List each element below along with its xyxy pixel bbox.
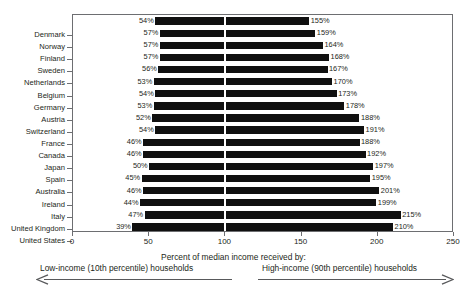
range-bar: [155, 126, 364, 133]
low-value-label: 53%: [137, 76, 153, 88]
category-tick: [67, 71, 72, 72]
x-axis-tick-label: 0: [70, 237, 74, 246]
category-label-denmark: Denmark: [0, 29, 65, 41]
low-value-label: 54%: [139, 88, 155, 100]
low-value-label: 44%: [124, 197, 140, 209]
low-value-label: 45%: [125, 172, 141, 184]
category-row: Switzerland: [0, 126, 65, 138]
category-row: Denmark: [0, 29, 65, 41]
category-row: Canada: [0, 150, 65, 162]
caption-high-income: High-income (90th percentile) households: [262, 263, 417, 273]
high-value-label: 168%: [329, 51, 349, 63]
range-bar: [149, 163, 373, 170]
chart-row: 45%195%: [73, 172, 452, 184]
x-axis-tick-label: 250: [446, 237, 459, 246]
range-bar: [152, 114, 359, 121]
low-value-label: 39%: [116, 221, 132, 233]
value-axis: 050100150200250: [72, 232, 453, 254]
category-tick: [67, 156, 72, 157]
category-tick: [67, 205, 72, 206]
caption-low-income: Low-income (10th percentile) households: [40, 263, 193, 273]
low-value-label: 46%: [127, 136, 143, 148]
chart-row: 53%178%: [73, 100, 452, 112]
category-row: Spain: [0, 174, 65, 186]
low-value-label: 57%: [144, 39, 160, 51]
x-axis-tick: [148, 232, 149, 236]
high-value-label: 192%: [366, 148, 386, 160]
range-bar: [160, 42, 323, 49]
x-axis-tick-label: 200: [370, 237, 383, 246]
chart-row: 57%168%: [73, 51, 452, 63]
high-value-label: 188%: [360, 136, 380, 148]
category-tick: [67, 180, 72, 181]
chart-row: 46%188%: [73, 136, 452, 148]
category-tick: [67, 47, 72, 48]
chart-row: 57%159%: [73, 27, 452, 39]
category-label-japan: Japan: [0, 162, 65, 174]
category-tick: [67, 192, 72, 193]
category-row: Netherlands: [0, 77, 65, 89]
category-label-switzerland: Switzerland: [0, 126, 65, 138]
range-bar: [143, 139, 359, 146]
chart-row: 54%173%: [73, 88, 452, 100]
low-value-label: 47%: [128, 209, 144, 221]
high-value-label: 195%: [370, 172, 390, 184]
high-value-label: 199%: [376, 197, 396, 209]
low-value-label: 53%: [137, 100, 153, 112]
clipped-header-remnant: [0, 0, 467, 9]
category-tick: [67, 229, 72, 230]
category-label-netherlands: Netherlands: [0, 77, 65, 89]
category-tick: [67, 144, 72, 145]
category-row: France: [0, 138, 65, 150]
chart-row: 46%201%: [73, 185, 452, 197]
chart-row: 52%188%: [73, 112, 452, 124]
range-bar: [155, 17, 309, 24]
x-axis-tick-label: 50: [144, 237, 153, 246]
range-bar: [142, 175, 371, 182]
reference-line-100: [224, 15, 226, 231]
category-row: Italy: [0, 211, 65, 223]
category-tick: [67, 35, 72, 36]
range-bar: [155, 90, 336, 97]
right-arrow-icon: [258, 274, 454, 285]
category-axis: DenmarkNorwayFinlandSwedenNetherlandsBel…: [0, 29, 73, 247]
chart-row: 46%192%: [73, 148, 452, 160]
high-value-label: 210%: [393, 221, 413, 233]
range-bar: [154, 78, 332, 85]
high-value-label: 191%: [364, 124, 384, 136]
high-value-label: 188%: [360, 112, 380, 124]
chart-row: 47%215%: [73, 209, 452, 221]
category-tick: [67, 132, 72, 133]
low-value-label: 54%: [139, 124, 155, 136]
high-value-label: 164%: [323, 39, 343, 51]
x-axis-tick: [72, 232, 73, 236]
left-arrow-icon: [36, 274, 232, 285]
chart-row: 56%167%: [73, 63, 452, 75]
chart-plot-area: DenmarkNorwayFinlandSwedenNetherlandsBel…: [72, 14, 453, 232]
range-bar: [143, 151, 366, 158]
range-bar: [160, 30, 315, 37]
low-value-label: 54%: [139, 15, 155, 27]
low-value-label: 52%: [136, 112, 152, 124]
chart-row: 53%170%: [73, 76, 452, 88]
category-label-austria: Austria: [0, 114, 65, 126]
low-value-label: 56%: [142, 63, 158, 75]
x-axis-tick: [377, 232, 378, 236]
category-tick: [67, 83, 72, 84]
caption-title: Percent of median income received by:: [0, 252, 467, 262]
category-row: Japan: [0, 162, 65, 174]
x-axis-tick-label: 100: [218, 237, 231, 246]
category-label-canada: Canada: [0, 150, 65, 162]
category-label-united-states: United States: [0, 235, 65, 247]
category-tick: [67, 96, 72, 97]
low-value-label: 57%: [144, 51, 160, 63]
category-label-france: France: [0, 138, 65, 150]
range-bar: [140, 199, 376, 206]
category-tick: [67, 168, 72, 169]
x-axis-tick: [453, 232, 454, 236]
category-label-germany: Germany: [0, 102, 65, 114]
low-value-label: 57%: [144, 27, 160, 39]
range-bar: [154, 102, 345, 109]
high-value-label: 170%: [332, 76, 352, 88]
category-tick: [67, 59, 72, 60]
